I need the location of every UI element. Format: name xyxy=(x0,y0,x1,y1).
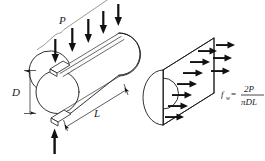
label-applied-load: P xyxy=(58,14,66,26)
label-diameter: D xyxy=(11,86,20,98)
cylinder-body xyxy=(29,33,140,114)
formula-symbol: f xyxy=(221,89,225,99)
load-arrow xyxy=(100,11,107,34)
stress-arrow-group-top xyxy=(211,42,235,75)
stress-arrow xyxy=(216,42,235,49)
load-arrow xyxy=(85,19,92,43)
stress-formula: f w = 2P πDL xyxy=(221,84,264,107)
formula-subscript: w xyxy=(226,95,230,101)
load-brace xyxy=(37,0,110,50)
load-arrow xyxy=(115,4,122,26)
cylinder-near-end-circle xyxy=(36,71,79,114)
figure-canvas: P D L xyxy=(0,0,265,161)
load-arrow xyxy=(69,28,76,52)
formula-equals: = xyxy=(231,89,236,99)
stress-arrow xyxy=(213,55,232,62)
reaction-arrow xyxy=(51,129,58,155)
label-length: L xyxy=(93,107,100,119)
left-diagram-group: P D L xyxy=(11,0,141,154)
semicircle-end-face xyxy=(143,70,163,125)
formula-denominator: πDL xyxy=(241,97,257,107)
right-diagram-group: f w = 2P πDL xyxy=(143,38,264,125)
formula-numerator: 2P xyxy=(244,84,255,94)
split-cylinder-figure: P D L xyxy=(0,0,265,161)
